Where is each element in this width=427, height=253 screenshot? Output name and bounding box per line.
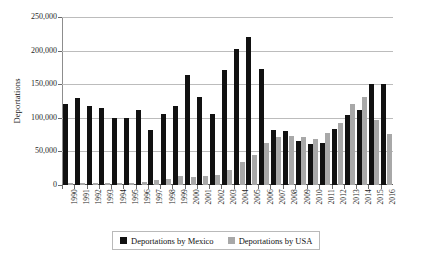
- x-tick-label: 1992: [94, 189, 103, 205]
- bar-usa: [105, 183, 110, 185]
- bar-group: [259, 17, 271, 185]
- bar-group: [210, 17, 222, 185]
- x-tick-label: 1996: [143, 189, 152, 205]
- y-tick-label: 250,000: [1, 12, 57, 21]
- x-tick-label: 1990: [70, 189, 79, 205]
- legend-item: Deportations by Mexico: [120, 236, 214, 246]
- bar-usa: [252, 155, 257, 185]
- bar-mexico: [185, 75, 190, 185]
- bar-mexico: [148, 130, 153, 185]
- bar-group: [283, 17, 295, 185]
- y-tick-label: 100,000: [1, 113, 57, 122]
- bar-usa: [374, 120, 379, 185]
- bar-group: [271, 17, 283, 185]
- y-tick-label: 50,000: [1, 146, 57, 155]
- bar-group: [136, 17, 148, 185]
- bar-usa: [93, 183, 98, 185]
- bar-group: [148, 17, 160, 185]
- bar-mexico: [296, 141, 301, 185]
- x-tick-label: 1997: [155, 189, 164, 205]
- legend-swatch: [120, 237, 127, 244]
- x-tick-mark: [62, 185, 63, 189]
- x-tick-label: 2000: [192, 189, 201, 205]
- x-tick-label: 2008: [290, 189, 299, 205]
- bar-usa: [325, 133, 330, 185]
- bar-group: [369, 17, 381, 185]
- x-tick-label: 2012: [339, 189, 348, 205]
- x-tick-label: 1991: [82, 189, 91, 205]
- bar-usa: [387, 134, 392, 185]
- bar-mexico: [136, 110, 141, 185]
- bar-mexico: [234, 49, 239, 185]
- bar-usa: [301, 137, 306, 185]
- bar-usa: [129, 183, 134, 185]
- bar-mexico: [246, 37, 251, 186]
- bar-group: [197, 17, 209, 185]
- bar-usa: [154, 180, 159, 185]
- x-tick-label: 1993: [106, 189, 115, 205]
- bar-usa: [264, 143, 269, 185]
- bar-group: [222, 17, 234, 185]
- bar-usa: [313, 139, 318, 185]
- x-tick-label: 2001: [204, 189, 213, 205]
- x-tick-label: 2002: [217, 189, 226, 205]
- bar-group: [112, 17, 124, 185]
- bar-usa: [178, 176, 183, 185]
- bar-group: [246, 17, 258, 185]
- bar-usa: [191, 177, 196, 185]
- legend-label: Deportations by USA: [239, 236, 313, 246]
- y-axis-title: Deportations: [12, 46, 22, 156]
- bar-mexico: [283, 131, 288, 185]
- y-tick-mark: [58, 151, 62, 152]
- bar-group: [75, 17, 87, 185]
- x-tick-label: 1995: [131, 189, 140, 205]
- x-tick-label: 2014: [364, 189, 373, 205]
- bar-usa: [80, 183, 85, 185]
- x-tick-label: 2011: [327, 189, 336, 204]
- bar-usa: [117, 183, 122, 185]
- x-tick-label: 2013: [352, 189, 361, 205]
- y-tick-mark: [58, 51, 62, 52]
- bar-group: [332, 17, 344, 185]
- bar-mexico: [222, 70, 227, 185]
- x-tick-label: 2007: [278, 189, 287, 205]
- bar-group: [234, 17, 246, 185]
- chart-legend: Deportations by MexicoDeportations by US…: [112, 231, 320, 250]
- bar-mexico: [381, 84, 386, 185]
- y-tick-mark: [58, 118, 62, 119]
- bar-mexico: [99, 108, 104, 185]
- bar-mexico: [173, 106, 178, 185]
- bar-group: [320, 17, 332, 185]
- bar-group: [357, 17, 369, 185]
- bar-mexico: [332, 129, 337, 185]
- bar-mexico: [124, 118, 129, 185]
- bar-usa: [215, 175, 220, 185]
- bar-mexico: [259, 69, 264, 185]
- bar-group: [161, 17, 173, 185]
- bar-usa: [362, 97, 367, 185]
- x-tick-label: 1999: [180, 189, 189, 205]
- bar-group: [99, 17, 111, 185]
- bar-usa: [203, 176, 208, 185]
- bar-mexico: [320, 143, 325, 185]
- bar-group: [124, 17, 136, 185]
- legend-swatch: [228, 237, 235, 244]
- deportations-bar-chart: Deportations 050,000100,000150,000200,00…: [0, 0, 427, 253]
- y-tick-label: 0: [1, 180, 57, 189]
- bar-usa: [142, 182, 147, 185]
- x-tick-label: 1998: [168, 189, 177, 205]
- bar-usa: [68, 183, 73, 185]
- bar-mexico: [75, 98, 80, 185]
- legend-item: Deportations by USA: [228, 236, 313, 246]
- y-tick-mark: [58, 17, 62, 18]
- y-tick-mark: [58, 84, 62, 85]
- x-tick-label: 1994: [119, 189, 128, 205]
- x-tick-label: 2016: [388, 189, 397, 205]
- bar-usa: [166, 179, 171, 185]
- bar-group: [87, 17, 99, 185]
- legend-label: Deportations by Mexico: [131, 236, 214, 246]
- bar-mexico: [87, 106, 92, 185]
- bar-mexico: [308, 144, 313, 185]
- bar-mexico: [369, 84, 374, 185]
- bar-mexico: [271, 130, 276, 185]
